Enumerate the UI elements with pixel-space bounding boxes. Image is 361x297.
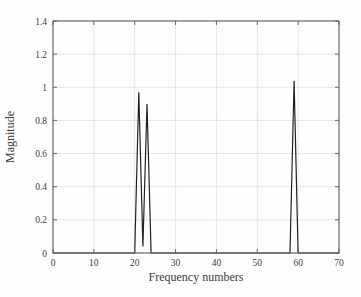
y-tick-label-0: 0 [42, 249, 47, 259]
y-axis-label: Magnitude [3, 111, 17, 163]
x-tick-label-70: 70 [334, 258, 344, 268]
y-tick-label-1.2: 1.2 [35, 50, 47, 60]
y-tick-label-0.8: 0.8 [35, 116, 47, 126]
y-tick-label-0.6: 0.6 [35, 149, 47, 159]
y-tick-label-1.4: 1.4 [35, 17, 47, 27]
magnitude-spectrum-chart: 01020304050607000.20.40.60.811.21.4 Freq… [0, 0, 361, 297]
x-tick-label-20: 20 [130, 258, 140, 268]
y-tick-label-0.4: 0.4 [35, 182, 47, 192]
grid-layer [53, 21, 339, 253]
y-tick-label-1: 1 [42, 83, 47, 93]
x-tick-label-60: 60 [293, 258, 303, 268]
spectrum-line [53, 81, 339, 253]
data-layer [53, 81, 339, 253]
plot-border [53, 21, 339, 253]
x-tick-label-40: 40 [212, 258, 222, 268]
x-tick-label-50: 50 [253, 258, 263, 268]
x-tick-label-30: 30 [171, 258, 181, 268]
x-tick-label-0: 0 [51, 258, 56, 268]
axis-layer [53, 21, 339, 253]
x-axis-label: Frequency numbers [149, 270, 244, 284]
y-tick-label-0.2: 0.2 [35, 215, 47, 225]
x-tick-label-10: 10 [89, 258, 99, 268]
figure-container: 01020304050607000.20.40.60.811.21.4 Freq… [0, 0, 361, 297]
